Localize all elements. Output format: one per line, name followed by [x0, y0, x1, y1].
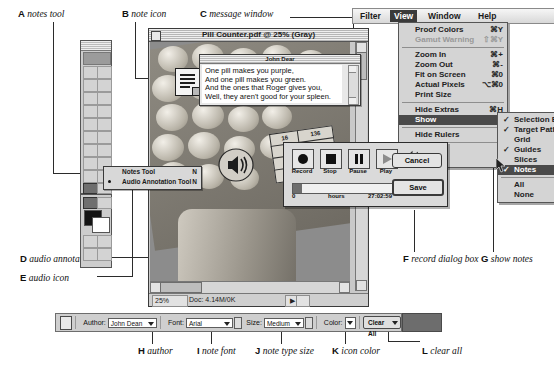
- menu-item-label: Show: [415, 115, 436, 124]
- chevron-down-icon[interactable]: [148, 322, 154, 326]
- clear-all-button[interactable]: Clear All: [363, 316, 401, 329]
- callout-j: J note type size: [255, 345, 314, 356]
- tool-path-selection[interactable]: [83, 157, 98, 170]
- doc-size-label: Doc: 4.14M/0K: [187, 295, 285, 305]
- tool-gradient[interactable]: [97, 131, 112, 144]
- menu-help[interactable]: Help: [474, 10, 500, 22]
- flyout-item-shortcut: N: [192, 177, 197, 187]
- screen-mode-full[interactable]: [97, 248, 112, 261]
- menu-filter[interactable]: Filter: [356, 10, 385, 22]
- tool-dodge[interactable]: [97, 144, 112, 157]
- menu-item-proof-colors[interactable]: Proof Colors ⌘Y: [399, 25, 507, 35]
- scroll-right-icon[interactable]: [339, 282, 350, 293]
- chevron-down-icon[interactable]: [295, 322, 301, 326]
- size-stepper[interactable]: [305, 317, 313, 329]
- font-stepper[interactable]: [234, 317, 242, 329]
- note-text-body[interactable]: One pill makes you purple, And one pill …: [202, 65, 342, 103]
- menu-item-label: Proof Colors: [415, 25, 463, 34]
- menu-item-hide-rulers[interactable]: Hide Rulers: [399, 130, 507, 140]
- standard-mode-button[interactable]: [83, 235, 98, 248]
- menu-item-label: Zoom In: [415, 50, 446, 59]
- note-message-window[interactable]: John Dear One pill makes you purple, And…: [199, 54, 361, 106]
- screen-mode-standard[interactable]: [83, 248, 98, 261]
- quick-mask-mode-button[interactable]: [97, 235, 112, 248]
- scroll-thumb[interactable]: [160, 282, 202, 293]
- icon-color-swatch[interactable]: [345, 317, 357, 329]
- audio-icon[interactable]: [218, 148, 254, 182]
- menu-view[interactable]: View: [390, 10, 417, 22]
- flyout-item-notes-tool[interactable]: Notes Tool N: [104, 167, 201, 177]
- menu-separator: [501, 177, 554, 178]
- record-button[interactable]: [292, 149, 314, 169]
- tool-healing-brush[interactable]: [83, 105, 98, 118]
- tool-slice[interactable]: [97, 92, 112, 105]
- callout-h: H author: [138, 345, 173, 356]
- font-select[interactable]: Arial: [186, 318, 233, 328]
- font-value: Arial: [189, 320, 202, 327]
- author-input[interactable]: John Dean: [108, 318, 157, 328]
- tool-crop[interactable]: [83, 92, 98, 105]
- save-button[interactable]: Save: [392, 179, 444, 196]
- stop-button[interactable]: [320, 149, 342, 169]
- submenu-item-none[interactable]: None: [498, 190, 554, 200]
- tool-hand[interactable]: [97, 197, 112, 209]
- menu-item-print-size[interactable]: Print Size: [399, 90, 507, 100]
- background-color-swatch[interactable]: [92, 217, 110, 233]
- tool-notes[interactable]: [83, 183, 98, 194]
- chevron-down-icon[interactable]: [224, 322, 230, 326]
- note-tool-icon: [60, 316, 72, 330]
- chevron-down-icon: [347, 321, 353, 325]
- toolbox-titlebar[interactable]: [81, 41, 111, 51]
- pause-button[interactable]: [348, 149, 370, 169]
- tool-pen[interactable]: [83, 170, 98, 183]
- scroll-down-icon[interactable]: [356, 280, 367, 291]
- pause-button-label: Pause: [346, 168, 370, 174]
- zoom-level[interactable]: 25%: [152, 295, 188, 307]
- tool-notes-selected[interactable]: [83, 197, 98, 209]
- scroll-down-icon[interactable]: [349, 97, 356, 104]
- tool-flyout-menu: Notes Tool N Audio Annotation Tool N: [103, 166, 202, 190]
- scroll-up-icon[interactable]: [349, 66, 356, 73]
- menu-item-show[interactable]: Show: [399, 115, 507, 125]
- tool-magic-wand[interactable]: [97, 79, 112, 92]
- submenu-item-label: All: [514, 180, 524, 189]
- tool-history-brush[interactable]: [97, 118, 112, 131]
- menu-item-gamut-warning[interactable]: Gamut Warning ⇧⌘Y: [399, 35, 507, 45]
- leader-j-v: [281, 330, 282, 344]
- tool-move[interactable]: [97, 66, 112, 79]
- flyout-item-audio-annotation-tool[interactable]: Audio Annotation Tool N: [104, 177, 201, 187]
- menu-item-shortcut: ⌘Y: [490, 25, 503, 35]
- stop-button-label: Stop: [318, 168, 342, 174]
- menu-item-zoom-out[interactable]: Zoom Out ⌘-: [399, 60, 507, 70]
- submenu-item-selection-edges[interactable]: ✓ Selection Edges: [498, 115, 554, 125]
- menu-item-fit-on-screen[interactable]: Fit on Screen ⌘0: [399, 70, 507, 80]
- submenu-item-grid[interactable]: Grid: [498, 135, 554, 145]
- size-select[interactable]: Medium: [264, 318, 304, 328]
- callout-f: F record dialog box: [403, 253, 479, 265]
- note-icon[interactable]: [175, 68, 201, 96]
- callout-h-key: H: [138, 345, 145, 356]
- menu-item-zoom-in[interactable]: Zoom In ⌘+: [399, 50, 507, 60]
- menu-window[interactable]: Window: [424, 10, 465, 22]
- menu-item-hide-extras[interactable]: Hide Extras ⌘H: [399, 105, 507, 115]
- menu-item-label: Hide Rulers: [415, 130, 459, 139]
- callout-e-key: E: [20, 272, 26, 283]
- submenu-item-guides[interactable]: ✓ Guides: [498, 145, 554, 155]
- horizontal-scrollbar[interactable]: [150, 281, 350, 293]
- tool-lasso[interactable]: [83, 79, 98, 92]
- note-scrollbar[interactable]: [348, 65, 359, 105]
- submenu-item-all[interactable]: All: [498, 180, 554, 190]
- tool-clone-stamp[interactable]: [83, 118, 98, 131]
- tool-eraser[interactable]: [83, 131, 98, 144]
- callout-i-key: I: [197, 345, 200, 356]
- menu-item-actual-pixels[interactable]: Actual Pixels ⌥⌘0: [399, 80, 507, 90]
- tool-brush[interactable]: [97, 105, 112, 118]
- tool-marquee[interactable]: [83, 66, 98, 79]
- cancel-button[interactable]: Cancel: [392, 153, 442, 168]
- progress-end-label: 27:02:59: [368, 193, 392, 199]
- record-button-label: Record: [290, 168, 314, 174]
- submenu-item-target-path[interactable]: ✓ Target Path: [498, 125, 554, 135]
- toolbox-logo: [83, 52, 111, 65]
- tool-blur[interactable]: [83, 144, 98, 157]
- document-titlebar[interactable]: Pill Counter.pdf @ 25% (Gray): [149, 29, 368, 42]
